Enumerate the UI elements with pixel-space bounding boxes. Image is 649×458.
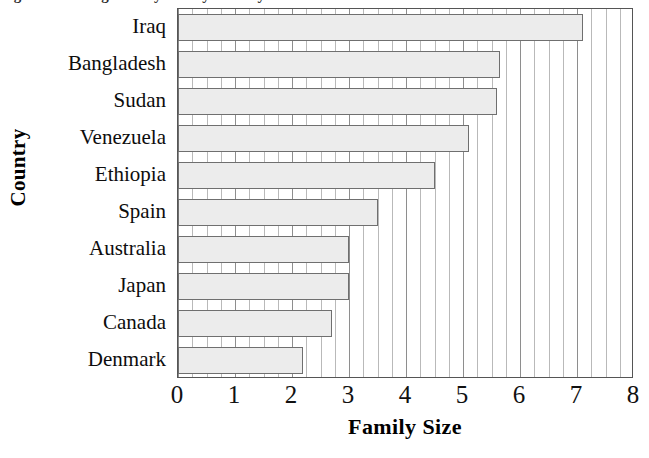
x-tick-0: 0 (157, 381, 197, 409)
bar-ethiopia[interactable] (178, 162, 435, 189)
bar-iraq[interactable] (178, 14, 583, 41)
bar-row (178, 347, 632, 374)
x-tick-5: 5 (442, 381, 482, 409)
bar-denmark[interactable] (178, 347, 303, 374)
category-label-venezuela: Venezuela (0, 127, 166, 148)
x-tick-7: 7 (556, 381, 596, 409)
bar-row (178, 162, 632, 189)
x-tick-4: 4 (385, 381, 425, 409)
y-axis-category-labels: IraqBangladeshSudanVenezuelaEthiopiaSpai… (0, 8, 172, 378)
bar-row (178, 199, 632, 226)
bar-row (178, 14, 632, 41)
category-label-iraq: Iraq (0, 16, 166, 37)
bar-row (178, 236, 632, 263)
bar-series (178, 9, 632, 377)
bar-venezuela[interactable] (178, 125, 469, 152)
category-label-sudan: Sudan (0, 90, 166, 111)
category-label-bangladesh: Bangladesh (0, 53, 166, 74)
x-tick-8: 8 (613, 381, 649, 409)
bar-sudan[interactable] (178, 88, 497, 115)
x-tick-2: 2 (271, 381, 311, 409)
bar-row (178, 310, 632, 337)
x-tick-6: 6 (499, 381, 539, 409)
category-label-canada: Canada (0, 312, 166, 333)
bar-row (178, 51, 632, 78)
bar-japan[interactable] (178, 273, 349, 300)
category-label-spain: Spain (0, 201, 166, 222)
category-label-denmark: Denmark (0, 349, 166, 370)
bar-bangladesh[interactable] (178, 51, 500, 78)
x-tick-1: 1 (214, 381, 254, 409)
x-axis-tick-labels: 012345678 (0, 381, 649, 411)
bar-australia[interactable] (178, 236, 349, 263)
bar-row (178, 125, 632, 152)
chart-plot-area (177, 8, 633, 378)
category-label-ethiopia: Ethiopia (0, 164, 166, 185)
bar-spain[interactable] (178, 199, 378, 226)
bar-canada[interactable] (178, 310, 332, 337)
x-axis-title: Family Size (177, 414, 633, 440)
x-tick-3: 3 (328, 381, 368, 409)
figure-caption-remnant: Figure 1. Average family size by country (0, 0, 649, 3)
category-label-japan: Japan (0, 275, 166, 296)
category-label-australia: Australia (0, 238, 166, 259)
bar-row (178, 88, 632, 115)
bar-row (178, 273, 632, 300)
